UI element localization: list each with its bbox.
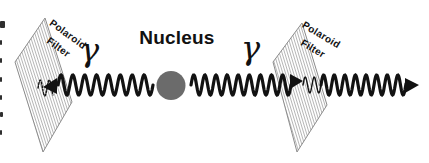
edge-text-fragment: [0, 112, 3, 117]
gamma-ray-waves: [38, 75, 406, 96]
right-photon-wave-before-filter: [191, 75, 291, 95]
nucleus-circle: [157, 71, 186, 100]
nucleus-label: Nucleus: [135, 27, 219, 48]
right-photon-end-arrowhead: [405, 78, 419, 93]
physics-figure: Nucleus γ γ Polaroid Filter Polaroid Fil…: [0, 0, 429, 163]
gamma-right-label: γ: [241, 31, 260, 65]
left-photon-wave: [58, 75, 153, 95]
right-photon-wave-after-filter: [321, 75, 406, 95]
edge-text-fragment: [0, 77, 2, 82]
edge-text-fragment: [0, 130, 2, 135]
edge-text-fragment: [0, 58, 2, 63]
edge-text-fragment: [0, 95, 2, 100]
edge-text-fragment: [0, 40, 2, 45]
page-edge-text-fragments: [0, 21, 5, 135]
edge-text-fragment: [0, 21, 5, 28]
